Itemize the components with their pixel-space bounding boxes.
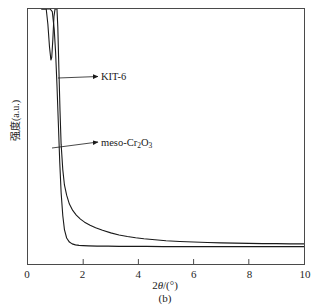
x-axis-title: 2θ/(°)	[0, 279, 330, 291]
y-axis-title-text: 强度(a.u.)	[10, 100, 21, 141]
annotation-meso-sub-3: 3	[149, 141, 153, 150]
annotation-kit6-text: KIT-6	[101, 71, 126, 82]
x-axis-title-suffix: /(°)	[163, 279, 178, 291]
curve-kit6	[42, 9, 304, 244]
plot-area	[27, 8, 305, 265]
y-axis-title: 强度(a.u.)	[7, 61, 22, 181]
annotation-meso-text-o: O	[141, 137, 149, 148]
curve-meso-cr2o3	[42, 9, 304, 247]
figure-caption: (b)	[0, 292, 330, 304]
curve-canvas	[28, 9, 304, 264]
annotation-label-kit6: KIT-6	[101, 71, 126, 82]
figure-caption-text: (b)	[159, 292, 172, 304]
xrd-figure: 0246810 KIT-6 meso-Cr2O3 强度(a.u.) 2θ/(°)…	[0, 0, 330, 307]
annotation-meso-text-a: meso-Cr	[101, 137, 137, 148]
annotation-label-meso-cr2o3: meso-Cr2O3	[101, 137, 152, 151]
